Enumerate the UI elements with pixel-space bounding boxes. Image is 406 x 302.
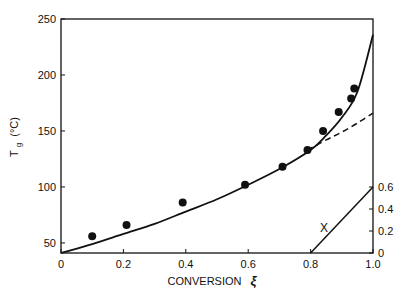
x-tick-label: 0.4 (178, 258, 193, 270)
y-axis-title: T g (°C) (8, 117, 23, 157)
x-axis-title-symbol: ξ (251, 273, 258, 288)
data-point (179, 199, 187, 207)
data-point (335, 108, 343, 116)
inset-tick-label: 0 (378, 247, 384, 259)
x-tick-label: 0.2 (116, 258, 131, 270)
data-point (350, 84, 358, 92)
data-point (88, 232, 96, 240)
data-point (347, 94, 355, 102)
x-tick-label: 0 (58, 258, 64, 270)
data-point (279, 163, 287, 171)
x-axis-title: CONVERSION ξ (168, 273, 258, 288)
data-point (319, 127, 327, 135)
inset-x-label: X (320, 221, 328, 235)
chart: 50100150200250 00.20.40.60.81.0 00.20.40… (0, 0, 406, 302)
x-tick-label: 1.0 (365, 258, 380, 270)
x-axis-title-text: CONVERSION (168, 275, 242, 287)
y-axis-title-main: T (8, 150, 20, 157)
y-tick-label: 250 (38, 13, 56, 25)
data-points (88, 84, 358, 240)
y-tick-label: 200 (38, 69, 56, 81)
x-tick-label: 0.8 (303, 258, 318, 270)
x-tick-label: 0.6 (241, 258, 256, 270)
data-point (123, 221, 131, 229)
inset-tick-label: 0.2 (378, 225, 393, 237)
y-axis-title-unit: (°C) (8, 117, 20, 137)
x-axis-ticks: 00.20.40.60.81.0 (58, 249, 381, 270)
y-tick-label: 150 (38, 125, 56, 137)
y-axis-title-sub: g (14, 143, 23, 147)
y-tick-label: 100 (38, 181, 56, 193)
data-point (241, 181, 249, 189)
data-point (303, 146, 311, 154)
inset-tick-label: 0.6 (378, 181, 393, 193)
inset-tick-label: 0.4 (378, 203, 393, 215)
inset-x-line (311, 187, 373, 253)
y-tick-label: 50 (44, 237, 56, 249)
